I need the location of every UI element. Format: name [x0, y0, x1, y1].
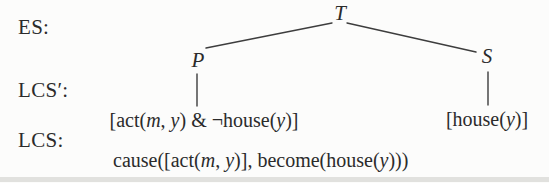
row-label-lcs-prime: LCS′: — [18, 80, 68, 101]
formula-lcs-full-part: , — [215, 149, 225, 171]
formula-p-lcs-var-m: m — [146, 109, 160, 131]
row-label-lcs: LCS: — [18, 130, 64, 151]
formula-s-lcs-var-y: y — [506, 108, 515, 130]
formula-p-lcs-part: )] — [285, 109, 298, 131]
tree-node-s: S — [482, 46, 493, 67]
tree-node-p: P — [192, 50, 205, 71]
formula-p-lcs-part: , — [161, 109, 171, 131]
scan-edge-band — [0, 177, 549, 182]
row-label-es: ES: — [18, 17, 49, 38]
formula-p-lcs-var-y: y — [171, 109, 180, 131]
formula-s-lcs: [house(y)] — [446, 109, 528, 129]
formula-p-lcs-part: ) & ¬house( — [179, 109, 276, 131]
edge-t-s — [347, 23, 476, 52]
formula-p-lcs: [act(m, y) & ¬house(y)] — [109, 110, 298, 130]
formula-lcs-full-var-y: y — [225, 149, 234, 171]
formula-p-lcs-part: [act( — [109, 109, 146, 131]
formula-p-lcs-var-y: y — [276, 109, 285, 131]
tree-node-t: T — [334, 3, 346, 24]
formula-lcs-full-var-m: m — [201, 149, 215, 171]
formula-s-lcs-part: )] — [515, 108, 528, 130]
formula-lcs-full-part: ))) — [388, 149, 408, 171]
formula-s-lcs-part: [house( — [446, 108, 506, 130]
es-lcs-linking-diagram: ES: LCS′: LCS: T P S [act(m, y) & ¬house… — [0, 0, 549, 183]
formula-lcs-full: cause([act(m, y)], become(house(y))) — [113, 150, 408, 170]
formula-lcs-full-part: )], become(house( — [234, 149, 380, 171]
formula-lcs-full-part: cause([act( — [113, 149, 201, 171]
edge-t-p — [206, 23, 332, 48]
